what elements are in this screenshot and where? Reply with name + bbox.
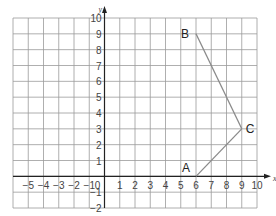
x-tick-label: 7 [208,180,214,191]
y-tick-label: 10 [90,13,102,24]
y-tick-label: 2 [96,140,102,151]
x-tick-label: 2 [132,180,138,191]
x-tick-label: −3 [53,180,65,191]
y-tick-label: −1 [90,187,102,198]
point-label-a: A [182,161,190,175]
x-tick-label: −5 [23,180,35,191]
y-tick-label: −2 [90,203,102,214]
y-tick-label: 9 [96,29,102,40]
y-tick-label: 3 [96,124,102,135]
x-tick-label: 5 [178,180,184,191]
y-axis-arrow-icon [102,6,107,13]
x-tick-label: 9 [239,180,245,191]
y-tick-label: 4 [96,108,102,119]
x-tick-label: 3 [147,180,153,191]
x-tick-label: −4 [38,180,50,191]
plot-svg: xy−5−4−3−2−1012345678910−2−112345678910A… [0,0,276,216]
x-tick-label: 6 [193,180,199,191]
point-label-b: B [181,27,189,41]
x-axis-label: x [272,174,276,183]
x-tick-label: 8 [224,180,230,191]
y-tick-label: 7 [96,61,102,72]
x-tick-label: −2 [68,180,80,191]
x-axis-arrow-icon [264,174,271,179]
coordinate-grid: xy−5−4−3−2−1012345678910−2−112345678910A… [0,0,276,216]
y-tick-label: 8 [96,45,102,56]
y-tick-label: 5 [96,92,102,103]
y-tick-label: 1 [96,156,102,167]
x-tick-label: 4 [163,180,169,191]
x-tick-label: 10 [251,180,263,191]
y-tick-label: 6 [96,76,102,87]
segment-CA [196,129,242,177]
x-tick-label: 1 [117,180,123,191]
point-label-c: C [246,122,255,136]
